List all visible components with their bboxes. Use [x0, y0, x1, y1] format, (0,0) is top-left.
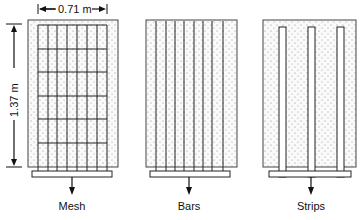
pull-arrow-icon — [69, 187, 75, 195]
panel-label-bars: Bars — [178, 200, 201, 212]
reinforcement-diagram: 0.71 m 1.37 m — [0, 0, 362, 220]
height-label: 1.37 m — [8, 83, 20, 117]
width-label: 0.71 m — [58, 3, 92, 15]
panel-strips: Strips — [263, 20, 356, 212]
width-dimension: 0.71 m — [38, 3, 107, 15]
height-dimension: 1.37 m — [6, 24, 22, 167]
pull-arrow-icon — [186, 187, 192, 195]
panel-bars: Bars — [146, 20, 237, 212]
panel-label-strips: Strips — [297, 200, 326, 212]
panel-label-mesh: Mesh — [59, 200, 86, 212]
panel-mesh: Mesh — [28, 20, 118, 212]
pull-arrow-icon — [308, 187, 314, 195]
